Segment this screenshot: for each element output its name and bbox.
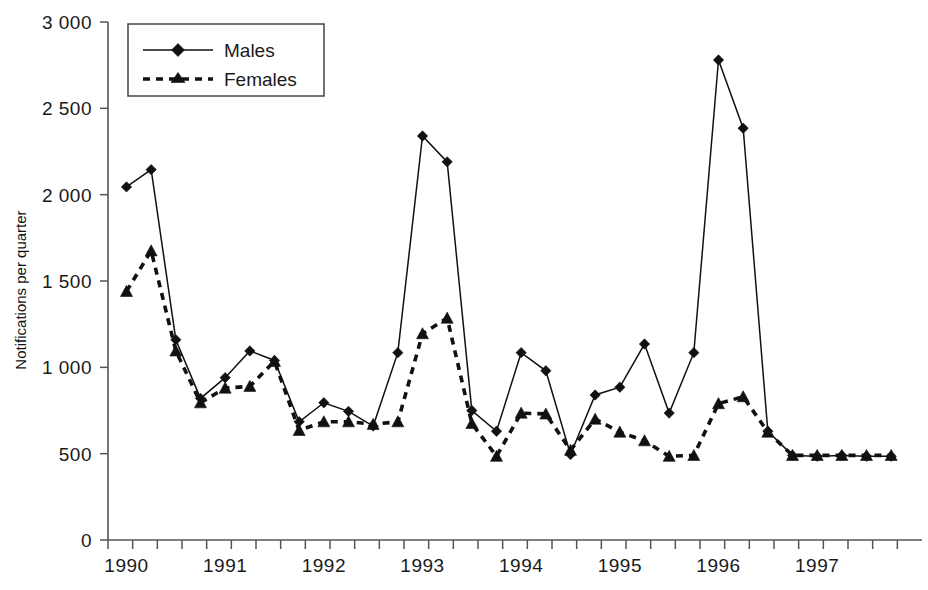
y-axis-title: Notifications per quarter	[12, 210, 29, 369]
data-point-diamond-icon	[664, 408, 674, 418]
data-point-diamond-icon	[639, 339, 649, 349]
x-axis: 19901991199219931994199519961997	[104, 540, 922, 576]
data-point-triangle-icon	[466, 417, 478, 428]
data-point-triangle-icon	[145, 245, 157, 256]
data-point-diamond-icon	[738, 123, 748, 133]
x-tick-label-1995: 1995	[598, 555, 642, 576]
data-point-triangle-icon	[392, 416, 404, 427]
y-tick-label: 500	[59, 444, 92, 465]
series-line-females	[127, 251, 892, 456]
y-tick-label-group: 05001 0001 5002 0002 5003 000	[42, 12, 92, 551]
data-point-triangle-icon	[441, 312, 453, 323]
x-tick-label-1996: 1996	[696, 555, 740, 576]
y-tick-label: 2 500	[42, 98, 92, 119]
chart-legend: Males Females	[128, 24, 324, 96]
data-point-diamond-icon	[146, 164, 156, 174]
data-point-diamond-icon	[615, 382, 625, 392]
x-tick-label-1997: 1997	[795, 555, 839, 576]
x-tick-label-1992: 1992	[302, 555, 346, 576]
line-chart: Notifications per quarter 05001 0001 500…	[0, 0, 928, 590]
data-point-triangle-icon	[639, 435, 651, 446]
data-point-triangle-icon	[614, 426, 626, 437]
x-tick-label-1990: 1990	[104, 555, 148, 576]
x-tick-label-group: 19901991199219931994199519961997	[104, 555, 839, 576]
data-point-diamond-icon	[393, 347, 403, 357]
data-point-triangle-icon	[417, 328, 429, 339]
data-point-triangle-icon	[589, 413, 601, 424]
data-point-diamond-icon	[689, 347, 699, 357]
y-tick-label: 1 500	[42, 271, 92, 292]
data-point-diamond-icon	[343, 406, 353, 416]
y-tick-group	[100, 22, 108, 540]
series-markers-females	[121, 245, 898, 462]
y-tick-label: 2 000	[42, 185, 92, 206]
x-tick-label-1994: 1994	[499, 555, 543, 576]
series-markers-males	[121, 55, 896, 462]
data-point-triangle-icon	[244, 380, 256, 391]
data-point-diamond-icon	[590, 390, 600, 400]
x-tick-label-1991: 1991	[203, 555, 247, 576]
data-point-triangle-icon	[318, 416, 330, 427]
data-point-diamond-icon	[121, 182, 131, 192]
plot-area	[121, 55, 898, 462]
x-tick-group	[108, 540, 897, 549]
data-point-diamond-icon	[541, 366, 551, 376]
y-tick-label: 0	[81, 530, 92, 551]
y-tick-label: 3 000	[42, 12, 92, 33]
data-point-diamond-icon	[713, 55, 723, 65]
legend-label-males: Males	[224, 40, 275, 61]
y-tick-label: 1 000	[42, 357, 92, 378]
x-tick-label-1993: 1993	[400, 555, 444, 576]
series-line-males	[127, 60, 892, 456]
data-point-diamond-icon	[516, 347, 526, 357]
y-axis: 05001 0001 5002 0002 5003 000	[42, 12, 108, 551]
legend-label-females: Females	[224, 69, 297, 90]
chart-container: Notifications per quarter 05001 0001 500…	[0, 0, 928, 590]
